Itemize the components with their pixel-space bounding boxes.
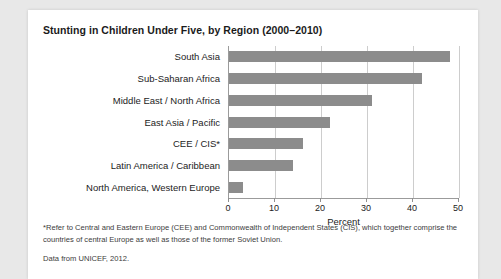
bar-row [229,155,459,177]
footnotes: *Refer to Central and Eastern Europe (CE… [43,222,463,265]
x-axis-tick-label: 40 [407,203,417,213]
bar [229,160,293,171]
x-axis-tick-label: 50 [453,203,463,213]
page-title: Stunting in Children Under Five, by Regi… [43,24,322,36]
bar-row [229,68,459,90]
chart-card: Stunting in Children Under Five, by Regi… [28,10,478,279]
y-axis-label: CEE / CIS* [28,133,226,155]
bar-chart: South Asia Sub-Saharan Africa Middle Eas… [28,46,478,214]
x-axis-tick-label: 20 [315,203,325,213]
x-axis-tick-label: 10 [269,203,279,213]
y-axis-label: Middle East / North Africa [28,89,226,111]
bar [229,138,303,149]
bar [229,95,372,106]
bar-row [229,89,459,111]
plot-area [228,46,459,198]
bar [229,73,422,84]
y-axis-label: Sub-Saharan Africa [28,68,226,90]
bar-row [229,176,459,198]
x-axis-tick [458,198,459,202]
y-axis-label: Latin America / Caribbean [28,155,226,177]
y-axis-category-labels: South Asia Sub-Saharan Africa Middle Eas… [28,46,226,198]
y-axis-label: East Asia / Pacific [28,111,226,133]
x-axis-tick [274,198,275,202]
x-axis-tick-label: 30 [361,203,371,213]
x-axis-line [228,198,459,199]
x-axis-tick-label: 0 [225,203,230,213]
bar-row [229,133,459,155]
bar-series [229,46,459,198]
y-axis-label: North America, Western Europe [28,176,226,198]
x-axis-tick [228,198,229,202]
x-axis-tick [412,198,413,202]
x-axis-tick [320,198,321,202]
screenshot-root: Stunting in Children Under Five, by Regi… [0,0,501,279]
gridline [459,46,460,198]
bar [229,117,330,128]
x-axis-tick [366,198,367,202]
bar-row [229,46,459,68]
bar [229,51,450,62]
footnote-text: *Refer to Central and Eastern Europe (CE… [43,222,463,245]
y-axis-label: South Asia [28,46,226,68]
bar [229,182,243,193]
bar-row [229,111,459,133]
source-text: Data from UNICEF, 2012. [43,253,463,265]
